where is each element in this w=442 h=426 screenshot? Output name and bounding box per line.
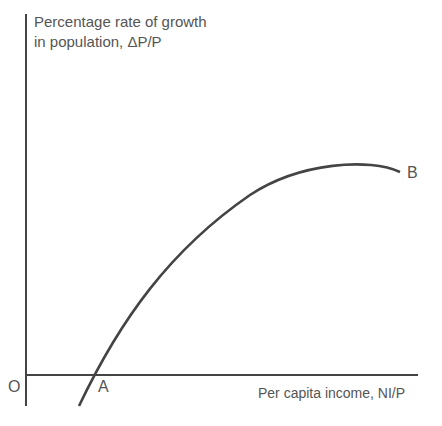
- y-axis-label-line1: Percentage rate of growth: [34, 12, 207, 31]
- point-b-label: B: [407, 163, 418, 182]
- y-axis-label-line2: in population, ΔP/P: [34, 32, 162, 51]
- growth-curve: [79, 164, 400, 406]
- point-a-label: A: [98, 377, 109, 396]
- diagram-canvas: [0, 0, 442, 426]
- origin-label: O: [8, 377, 20, 396]
- diagram: Percentage rate of growth in population,…: [0, 0, 442, 426]
- x-axis-label: Per capita income, NI/P: [258, 384, 405, 403]
